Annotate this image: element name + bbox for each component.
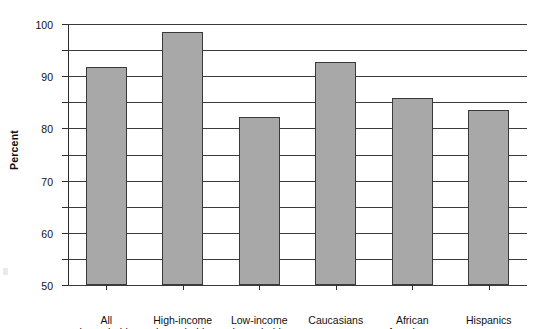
x-axis-category-label: Hispanics bbox=[451, 314, 528, 326]
y-axis-tick-label: 80 bbox=[41, 124, 53, 135]
y-axis-tick: 90 bbox=[62, 50, 68, 51]
scan-artifact bbox=[3, 268, 8, 275]
gridline bbox=[68, 233, 527, 234]
y-axis-tick: 20 bbox=[62, 233, 68, 234]
x-axis-tick bbox=[336, 285, 337, 290]
bar bbox=[392, 98, 433, 285]
y-axis-tick-label: 60 bbox=[41, 229, 53, 240]
y-axis-tick: 10 bbox=[62, 259, 68, 260]
gridline bbox=[68, 181, 527, 182]
x-axis-category-label: High-income households bbox=[145, 314, 222, 329]
y-axis-tick: 50 bbox=[62, 155, 68, 156]
y-axis-tick: 70 bbox=[62, 102, 68, 103]
gridline bbox=[68, 128, 527, 129]
x-axis-tick bbox=[106, 285, 107, 290]
gridline bbox=[68, 76, 527, 77]
y-axis-tick: 80 bbox=[62, 76, 68, 77]
bar-chart: Percent 1009080706050403020100All househ… bbox=[0, 0, 550, 329]
x-axis-category-label: Caucasians bbox=[298, 314, 375, 326]
gridline bbox=[68, 102, 527, 103]
x-axis-category-label: Low-income households bbox=[221, 314, 298, 329]
y-axis-tick: 40 bbox=[62, 181, 68, 182]
plot-area: 1009080706050403020100All householdsHigh… bbox=[68, 24, 527, 285]
y-axis-tick-label: 90 bbox=[41, 72, 53, 83]
bar bbox=[468, 110, 509, 285]
y-axis-tick: 100 bbox=[62, 24, 68, 25]
y-axis-tick: 60 bbox=[62, 128, 68, 129]
bar bbox=[162, 32, 203, 285]
x-axis-tick bbox=[489, 285, 490, 290]
y-axis-label: Percent bbox=[8, 130, 20, 170]
y-axis-tick-label: 70 bbox=[41, 176, 53, 187]
bar bbox=[315, 62, 356, 285]
x-axis-tick bbox=[183, 285, 184, 290]
bar bbox=[86, 67, 127, 285]
gridline bbox=[68, 207, 527, 208]
gridline bbox=[68, 155, 527, 156]
x-axis-category-label: All households bbox=[68, 314, 145, 329]
x-axis-tick bbox=[412, 285, 413, 290]
bar bbox=[239, 117, 280, 285]
gridline bbox=[68, 24, 527, 25]
gridline bbox=[68, 50, 527, 51]
y-axis-tick-label: 100 bbox=[35, 20, 53, 31]
x-axis-line bbox=[68, 285, 527, 286]
x-axis-tick bbox=[259, 285, 260, 290]
y-axis-tick: 30 bbox=[62, 207, 68, 208]
x-axis-category-label: African Americans bbox=[374, 314, 451, 329]
y-axis-tick: 0 bbox=[62, 285, 68, 286]
gridline bbox=[68, 259, 527, 260]
y-axis-tick-label: 50 bbox=[41, 281, 53, 292]
